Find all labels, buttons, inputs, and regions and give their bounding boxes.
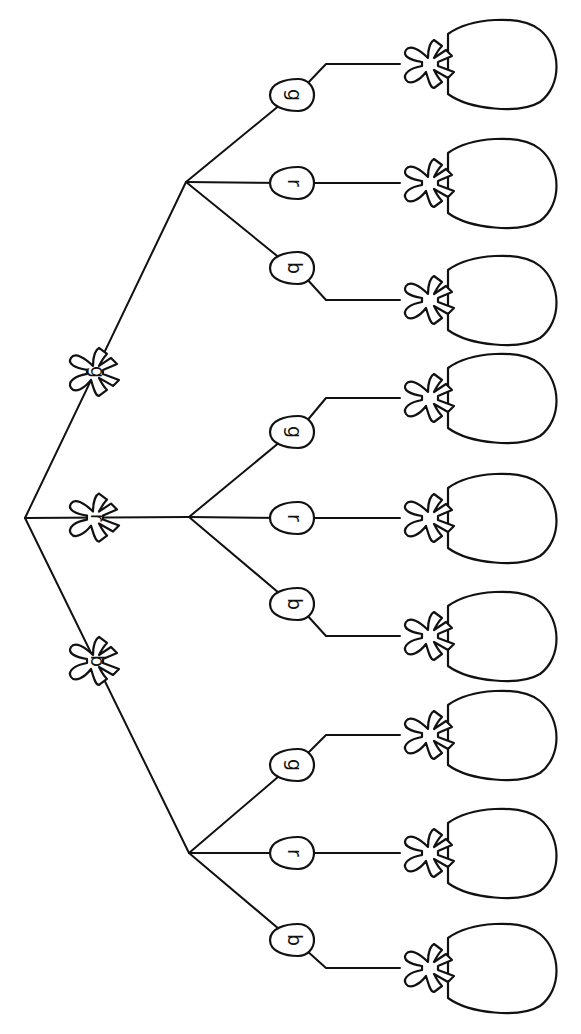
leaf-bag bbox=[405, 354, 557, 443]
leaf-edge bbox=[306, 64, 400, 85]
tree-diagram: ggrbrgrbbgrb bbox=[0, 0, 581, 1034]
level1-edge bbox=[25, 518, 189, 853]
level2-edge bbox=[189, 765, 292, 853]
leaf-bag bbox=[405, 592, 557, 681]
egg-node-b: b bbox=[270, 924, 314, 956]
node-label: r bbox=[284, 849, 306, 857]
egg-node-g: g bbox=[270, 749, 314, 781]
node-label: r bbox=[87, 514, 109, 522]
bag-icon bbox=[448, 139, 557, 228]
egg-node-g: g bbox=[270, 416, 314, 448]
node-label: b bbox=[284, 934, 306, 946]
bow-node-g: g bbox=[70, 348, 119, 396]
node-label: r bbox=[284, 514, 306, 522]
bow-node-b: b bbox=[70, 637, 119, 685]
bag-icon bbox=[448, 20, 557, 109]
egg-node-b: b bbox=[270, 252, 314, 284]
leaf-bag bbox=[405, 924, 557, 1013]
bow-icon bbox=[405, 612, 454, 660]
leaf-bag bbox=[405, 256, 557, 345]
egg-node-r: r bbox=[270, 502, 314, 534]
egg-node-g: g bbox=[270, 79, 314, 111]
level1-edge bbox=[25, 182, 186, 518]
egg-node-r: r bbox=[270, 837, 314, 869]
bag-icon bbox=[448, 809, 557, 898]
bow-icon bbox=[405, 276, 454, 324]
bag-icon bbox=[448, 691, 557, 780]
leaf-edge bbox=[306, 735, 400, 755]
level2-edge bbox=[189, 853, 292, 940]
tree-edges bbox=[25, 64, 400, 968]
bag-icon bbox=[448, 924, 557, 1013]
bow-icon bbox=[405, 829, 454, 877]
node-label: b bbox=[284, 262, 306, 274]
level2-edge bbox=[189, 432, 292, 517]
leaf-edge bbox=[306, 614, 400, 636]
bow-icon bbox=[405, 374, 454, 422]
bow-icon bbox=[405, 711, 454, 759]
node-label: b bbox=[87, 655, 109, 667]
leaf-edge bbox=[306, 398, 400, 422]
level2-edge bbox=[186, 95, 292, 182]
leaf-edge bbox=[306, 278, 400, 300]
leaf-edge bbox=[306, 950, 400, 968]
node-label: g bbox=[284, 89, 306, 101]
bow-icon bbox=[405, 159, 454, 207]
bow-icon bbox=[405, 944, 454, 992]
leaf-bag bbox=[405, 809, 557, 898]
bag-icon bbox=[448, 256, 557, 345]
bow-icon bbox=[405, 40, 454, 88]
egg-node-r: r bbox=[270, 167, 314, 199]
node-label: g bbox=[284, 426, 306, 438]
leaf-bag bbox=[405, 139, 557, 228]
bag-icon bbox=[448, 474, 557, 563]
node-label: g bbox=[87, 366, 109, 378]
egg-node-b: b bbox=[270, 588, 314, 620]
leaf-bag bbox=[405, 20, 557, 109]
node-label: r bbox=[284, 179, 306, 187]
bag-icon bbox=[448, 354, 557, 443]
bow-icon bbox=[405, 494, 454, 542]
leaf-bag bbox=[405, 474, 557, 563]
node-label: b bbox=[284, 598, 306, 610]
bag-icon bbox=[448, 592, 557, 681]
leaf-bag bbox=[405, 691, 557, 780]
node-label: g bbox=[284, 759, 306, 771]
